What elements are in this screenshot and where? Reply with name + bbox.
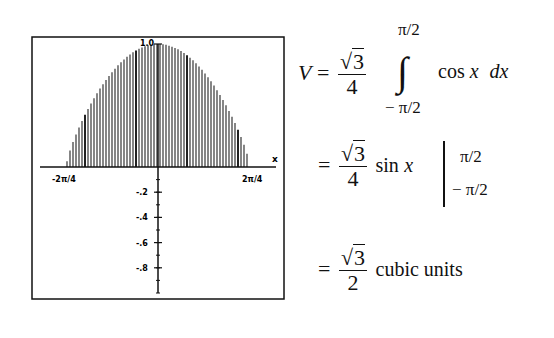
equals-sign: = [317,60,329,85]
sqrt-radicand: 3 [352,48,364,74]
denominator: 2 [339,271,367,295]
equation-line-3: = √3 2 cubic units [318,246,463,295]
coefficient-fraction: √3 4 [339,142,367,191]
integral-sign: ∫ [397,52,408,92]
y-tick-top: 1.0 [140,39,155,48]
equals-sign: = [318,256,330,281]
coefficient-fraction: √3 4 [338,50,366,99]
sin-function: sin [376,154,399,176]
denominator: 4 [338,75,366,99]
integrand: cos x dx [438,60,508,83]
equals-sign: = [318,152,330,177]
sqrt-radicand: 3 [353,244,365,270]
x-axis-label: x [272,154,278,164]
svg-text:-.6: -.6 [136,239,148,248]
svg-text:-.8: -.8 [136,264,148,273]
equation-line-1: V = √3 4 [298,50,369,99]
variable-x: x [470,60,479,82]
coefficient-fraction: √3 2 [339,246,367,295]
upper-limit: π/2 [460,147,482,167]
svg-text:-.2: -.2 [136,188,148,197]
equation-line-2: = √3 4 sin x [318,142,413,191]
denominator: 4 [339,167,367,191]
cos-function: cos [438,60,465,82]
differential: dx [490,60,509,82]
x-tick-right: 2π/4 [242,175,263,184]
units-text: cubic units [376,258,463,280]
lower-limit: − π/2 [452,180,488,200]
svg-text:-.4: -.4 [136,213,148,222]
volume-symbol: V [298,60,311,85]
upper-limit: π/2 [398,20,420,40]
cosine-area-plot: -.2-.4-.6-.8 x -2π/4 2π/4 1.0 [0,0,290,338]
lower-limit: − π/2 [385,98,421,118]
evaluation-bar [443,141,445,207]
sqrt-radicand: 3 [353,140,365,166]
x-tick-left: -2π/4 [52,175,76,184]
shaded-area [67,44,247,167]
variable-x: x [404,154,413,176]
